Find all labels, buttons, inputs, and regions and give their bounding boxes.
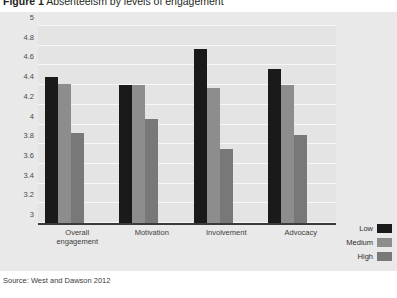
source-note: Source: West and Dawson 2012	[3, 276, 110, 285]
x-axis-line	[38, 223, 336, 225]
legend-item-low: Low	[359, 224, 392, 233]
bar-high	[71, 133, 84, 223]
bar-high	[220, 149, 233, 223]
chart-legend: LowMediumHigh	[346, 224, 392, 261]
x-axis-category-line: engagement	[42, 237, 113, 246]
bar-high	[145, 119, 158, 223]
chart-frame: Absenteeism rate (%) 54.84.64.44.243.83.…	[0, 12, 397, 271]
figure-caption-text: Absenteeism by levels of engagement	[46, 0, 223, 7]
legend-swatch-medium	[377, 238, 392, 247]
y-axis-tick-label: 4.6	[24, 52, 34, 61]
legend-swatch-low	[377, 224, 392, 233]
plot-area: 54.84.64.44.243.83.63.43.23 Overallengag…	[38, 26, 336, 223]
y-axis-tick-label: 4.4	[24, 72, 34, 81]
figure-root: Figure 1 Absenteeism by levels of engage…	[0, 0, 397, 298]
x-axis-category-label: Motivation	[113, 228, 188, 237]
bar-high	[294, 135, 307, 223]
bar-groups: OverallengagementMotivationInvolvementAd…	[38, 26, 336, 223]
legend-item-high: High	[358, 252, 392, 261]
legend-item-medium: Medium	[346, 238, 392, 247]
y-axis-tick-label: 3	[30, 210, 34, 219]
legend-swatch-high	[377, 252, 392, 261]
bar-set	[262, 26, 337, 223]
figure-caption-label: Figure 1	[3, 0, 44, 7]
legend-label: Medium	[346, 238, 373, 247]
x-axis-category-label: Overallengagement	[38, 228, 113, 246]
x-axis-category-line: Involvement	[191, 228, 262, 237]
bar-medium	[207, 88, 220, 223]
legend-label: Low	[359, 224, 373, 233]
y-axis-tick-label: 3.4	[24, 170, 34, 179]
x-axis-category-label: Involvement	[187, 228, 262, 237]
y-axis-tick-label: 5	[30, 13, 34, 22]
bar-group: Involvement	[187, 26, 262, 223]
x-axis-category-line: Advocacy	[266, 228, 337, 237]
bar-low	[45, 77, 58, 223]
y-axis-tick-label: 3.2	[24, 190, 34, 199]
y-axis-tick-label: 3.6	[24, 150, 34, 159]
figure-caption: Figure 1 Absenteeism by levels of engage…	[3, 0, 224, 7]
x-axis-category-line: Overall	[42, 228, 113, 237]
x-axis-category-line: Motivation	[117, 228, 188, 237]
bar-low	[194, 49, 207, 223]
y-axis-tick-label: 4.2	[24, 91, 34, 100]
bar-medium	[281, 85, 294, 223]
bar-low	[268, 69, 281, 223]
x-axis-category-label: Advocacy	[262, 228, 337, 237]
bar-set	[187, 26, 262, 223]
y-axis-tick-label: 4.8	[24, 32, 34, 41]
bar-set	[113, 26, 188, 223]
bar-group: Advocacy	[262, 26, 337, 223]
y-axis-tick-label: 4	[30, 111, 34, 120]
bar-medium	[132, 85, 145, 223]
bar-set	[38, 26, 113, 223]
bar-low	[119, 85, 132, 223]
bar-medium	[58, 84, 71, 223]
legend-label: High	[358, 252, 373, 261]
y-axis-tick-label: 3.8	[24, 131, 34, 140]
bar-group: Overallengagement	[38, 26, 113, 223]
bar-group: Motivation	[113, 26, 188, 223]
